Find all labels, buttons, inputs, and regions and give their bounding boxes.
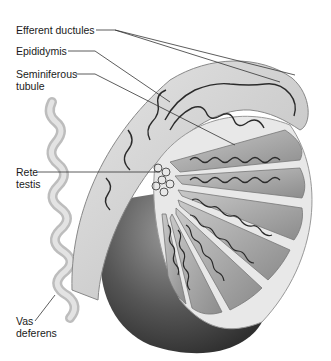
label-seminiferous-tubule: Seminiferous tubule [16,68,77,92]
label-rete-testis: Rete testis [16,166,41,190]
label-vas-deferens: Vas deferens [16,315,57,339]
vas-deferens-structure [50,102,75,318]
label-epididymis: Epididymis [16,45,67,57]
label-efferent-ductules: Efferent ductules [16,24,95,36]
leader-epididymis-2 [95,51,170,102]
